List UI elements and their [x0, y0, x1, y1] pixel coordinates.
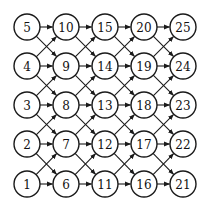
node-label: 18	[136, 99, 151, 113]
node-label: 21	[175, 178, 190, 192]
node-label: 24	[175, 60, 191, 74]
node-17: 17	[131, 131, 157, 157]
node-15: 15	[92, 14, 118, 40]
node-25: 25	[170, 14, 196, 40]
node-label: 15	[97, 21, 112, 35]
node-23: 23	[170, 92, 196, 118]
node-4: 4	[14, 53, 40, 79]
node-label: 23	[175, 99, 190, 113]
node-label: 8	[62, 99, 70, 113]
node-21: 21	[170, 171, 196, 197]
node-label: 4	[23, 60, 31, 74]
node-14: 14	[92, 53, 118, 79]
node-11: 11	[92, 171, 118, 197]
node-13: 13	[92, 92, 118, 118]
node-label: 25	[175, 21, 190, 35]
node-label: 9	[62, 60, 70, 74]
node-label: 20	[136, 21, 151, 35]
node-2: 2	[14, 131, 40, 157]
node-1: 1	[14, 171, 40, 197]
node-10: 10	[53, 14, 79, 40]
node-label: 14	[97, 60, 113, 74]
node-8: 8	[53, 92, 79, 118]
node-16: 16	[131, 171, 157, 197]
node-label: 19	[136, 60, 151, 74]
node-20: 20	[131, 14, 157, 40]
node-label: 5	[23, 21, 31, 35]
grid-graph-diagram: 1234567891011121314151617181920212223242…	[0, 0, 209, 209]
node-18: 18	[131, 92, 157, 118]
node-6: 6	[53, 171, 79, 197]
node-12: 12	[92, 131, 118, 157]
node-label: 10	[58, 21, 73, 35]
node-label: 17	[136, 138, 151, 152]
node-9: 9	[53, 53, 79, 79]
node-label: 11	[97, 178, 112, 192]
node-label: 12	[97, 138, 112, 152]
node-5: 5	[14, 14, 40, 40]
node-19: 19	[131, 53, 157, 79]
node-label: 13	[97, 99, 112, 113]
node-label: 1	[23, 178, 31, 192]
node-3: 3	[14, 92, 40, 118]
node-label: 3	[23, 99, 31, 113]
node-label: 2	[23, 138, 31, 152]
node-label: 7	[62, 138, 70, 152]
node-24: 24	[170, 53, 196, 79]
node-label: 22	[175, 138, 190, 152]
node-22: 22	[170, 131, 196, 157]
node-label: 6	[62, 178, 70, 192]
node-7: 7	[53, 131, 79, 157]
node-label: 16	[136, 178, 151, 192]
